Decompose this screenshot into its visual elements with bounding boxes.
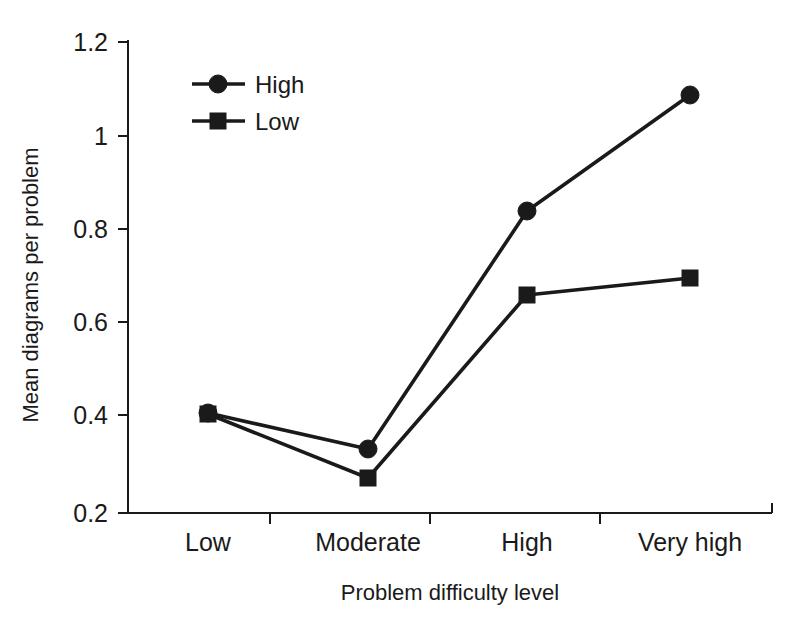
legend-label-high: High (255, 71, 304, 98)
x-category-label-low: Low (185, 528, 232, 556)
x-category-label-very-high: Very high (638, 528, 742, 556)
chart-canvas: 1.2 1 0.8 0.6 0.4 0.2 Low Moderate High … (0, 0, 811, 632)
y-tick-label-1: 1 (94, 122, 108, 150)
x-category-label-moderate: Moderate (315, 528, 421, 556)
x-axis-category-labels: Low Moderate High Very high (185, 528, 742, 556)
y-tick-label-1.2: 1.2 (73, 28, 108, 56)
x-axis-title: Problem difficulty level (341, 580, 559, 605)
legend-item-high: High (192, 71, 304, 98)
y-tick-label-0.2: 0.2 (73, 499, 108, 527)
y-tick-label-0.6: 0.6 (73, 308, 108, 336)
y-tick-label-0.4: 0.4 (73, 401, 108, 429)
legend-label-low: Low (255, 108, 300, 135)
circle-marker-icon (209, 75, 227, 93)
series-low-point-moderate (360, 470, 376, 486)
x-axis-ticks (270, 513, 600, 524)
y-axis-ticks (118, 42, 128, 513)
series-low (200, 270, 698, 486)
series-low-point-high (519, 287, 535, 303)
y-axis-title: Mean diagrams per problem (18, 147, 43, 422)
series-high-line (208, 95, 690, 449)
y-tick-label-0.8: 0.8 (73, 215, 108, 243)
series-high-point-very-high (681, 86, 699, 104)
series-low-line (208, 278, 690, 478)
square-marker-icon (210, 113, 226, 129)
series-high (199, 86, 699, 458)
series-high-point-low (199, 404, 217, 422)
y-axis-tick-labels: 1.2 1 0.8 0.6 0.4 0.2 (73, 28, 108, 527)
chart-figure: 1.2 1 0.8 0.6 0.4 0.2 Low Moderate High … (0, 0, 811, 632)
legend-item-low: Low (192, 108, 300, 135)
series-high-point-high (518, 202, 536, 220)
series-high-point-moderate (359, 440, 377, 458)
x-category-label-high: High (501, 528, 552, 556)
chart-legend: High Low (192, 71, 304, 135)
series-low-point-very-high (682, 270, 698, 286)
